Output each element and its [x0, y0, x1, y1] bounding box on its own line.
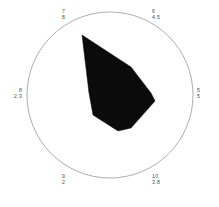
data-polygon	[82, 35, 155, 131]
axis-label-value: 2	[62, 180, 65, 186]
axis-label-value: 3.8	[152, 180, 160, 186]
axis-label-top-right: 6 4.5	[152, 9, 160, 20]
axis-label-bottom-left: 9 2	[62, 174, 65, 185]
polar-plot-svg	[0, 0, 219, 207]
axis-label-value: 5	[197, 94, 200, 100]
axis-label-right: 5 5	[197, 88, 200, 99]
axis-label-left: 8 2.3	[14, 88, 22, 99]
axis-label-value: 8	[62, 15, 65, 21]
axis-label-value: 4.5	[152, 15, 160, 21]
axis-label-bottom-right: 10 3.8	[152, 174, 160, 185]
polar-plot-container: 7 8 6 4.5 8 2.3 5 5 9 2 10 3.8	[0, 0, 219, 207]
axis-label-top-left: 7 8	[62, 9, 65, 20]
axis-label-value: 2.3	[14, 94, 22, 100]
